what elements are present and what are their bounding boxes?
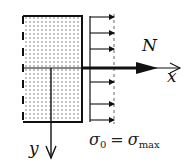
section-fill: [23, 16, 82, 122]
normal-force-arrowhead-icon: [136, 62, 158, 74]
x-axis-label: x: [167, 68, 177, 85]
y-axis-label: y: [29, 140, 39, 157]
sigma-symbol: σ: [89, 130, 100, 149]
stress-formula: σ0=σmax: [89, 132, 160, 150]
cross-section: [23, 16, 82, 122]
sigma-max-symbol: σ: [128, 130, 139, 149]
sigma-subscript-max: max: [139, 139, 160, 150]
equals-sign: =: [110, 130, 123, 149]
normal-force-arrow: [82, 62, 158, 74]
sigma-subscript-zero: 0: [100, 139, 106, 150]
force-label: N: [142, 37, 157, 54]
